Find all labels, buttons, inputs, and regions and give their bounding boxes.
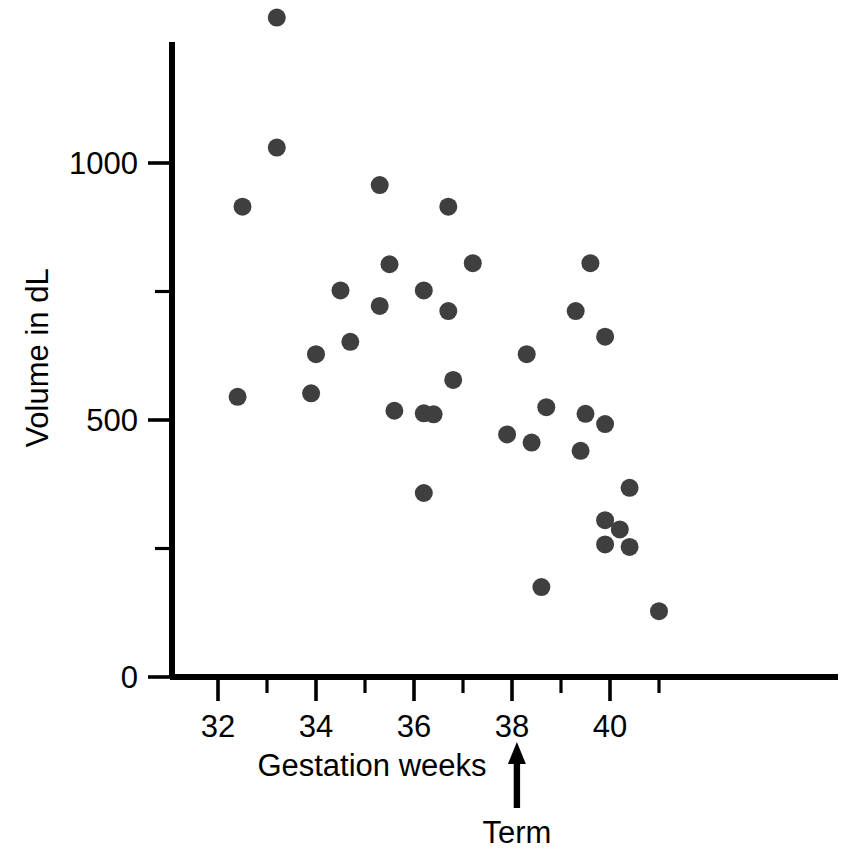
data-point	[611, 520, 629, 538]
data-point	[444, 371, 462, 389]
x-tick-label: 40	[593, 709, 627, 744]
data-point	[498, 425, 516, 443]
data-point	[518, 345, 536, 363]
data-point	[341, 333, 359, 351]
data-point	[537, 398, 555, 416]
data-point	[621, 479, 639, 497]
data-point	[567, 302, 585, 320]
axis-titles: Gestation weeksVolume in dL	[20, 268, 487, 783]
data-point	[385, 402, 403, 420]
data-point	[332, 281, 350, 299]
data-point	[581, 254, 599, 272]
axis-ticks	[148, 163, 659, 701]
data-point	[596, 535, 614, 553]
x-tick-label: 36	[397, 709, 431, 744]
y-tick-label: 500	[86, 403, 138, 438]
y-axis-title: Volume in dL	[20, 268, 55, 447]
x-tick-label: 34	[299, 709, 333, 744]
data-point	[577, 405, 595, 423]
data-point	[596, 328, 614, 346]
data-point	[268, 139, 286, 157]
data-point	[268, 9, 286, 27]
chart-canvas: 050010003234363840 Term Gestation weeksV…	[0, 0, 843, 860]
data-point	[415, 281, 433, 299]
x-tick-label: 32	[201, 709, 235, 744]
data-point	[371, 176, 389, 194]
term-label: Term	[482, 815, 551, 850]
data-point	[439, 198, 457, 216]
data-point	[439, 302, 457, 320]
data-point	[572, 442, 590, 460]
data-point	[532, 578, 550, 596]
scatter-plot-figure: 050010003234363840 Term Gestation weeksV…	[0, 0, 843, 860]
data-point	[425, 405, 443, 423]
data-point	[415, 484, 433, 502]
data-point	[234, 198, 252, 216]
up-arrow-icon	[508, 742, 526, 808]
data-point	[229, 388, 247, 406]
data-point	[381, 255, 399, 273]
axis-tick-labels: 050010003234363840	[69, 146, 627, 744]
data-points	[229, 9, 668, 621]
y-tick-label: 0	[121, 660, 138, 695]
x-axis-title: Gestation weeks	[257, 748, 486, 783]
data-point	[307, 345, 325, 363]
data-point	[523, 434, 541, 452]
data-point	[650, 602, 668, 620]
axes	[170, 42, 838, 677]
data-point	[596, 415, 614, 433]
data-point	[302, 384, 320, 402]
y-tick-label: 1000	[69, 146, 138, 181]
data-point	[621, 538, 639, 556]
data-point	[464, 254, 482, 272]
data-point	[371, 297, 389, 315]
x-tick-label: 38	[495, 709, 529, 744]
term-annotation: Term	[482, 742, 551, 850]
